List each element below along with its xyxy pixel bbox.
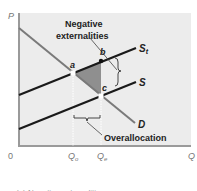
x-axis-label: Q [188,151,195,161]
qo-tick-label: Qo [68,151,79,162]
point-b-label: b [100,47,106,57]
origin-label: 0 [8,151,13,161]
curve-d-label: D [138,119,145,130]
curve-s-label: S [139,77,146,88]
point-b-marker [99,59,103,63]
point-c-marker [99,94,103,98]
externality-diagram: Negative externalities a b c St S D Over… [0,0,197,191]
negative-externalities-label-line1: Negative [65,19,103,29]
point-a-marker [71,71,75,75]
point-a-label: a [70,60,75,70]
negative-externalities-label-line2: externalities [56,31,109,41]
figure-caption: (a) Negative externalities [16,188,104,191]
y-axis-label: P [8,11,14,21]
qe-tick-label: Qe [97,151,108,162]
overallocation-label: Overallocation [104,133,167,143]
point-c-label: c [102,83,107,93]
